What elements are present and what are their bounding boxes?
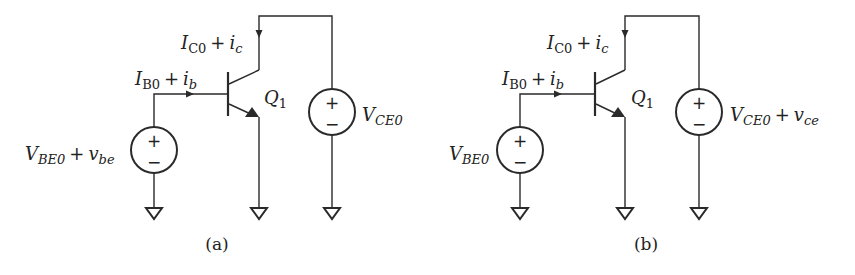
base-source-label: VBE0+vbe [25, 143, 115, 167]
collector-current-label: IC0+ic [180, 32, 243, 56]
ground-icon [251, 208, 267, 219]
base-wire [154, 94, 228, 127]
circuit-panel-b: + − + − IC0+ic IB0+ib Q1 VBE0 VCE0+vce (… [449, 16, 819, 254]
base-current-label: IB0+ib [501, 68, 564, 92]
ce-source-label: VCE0+vce [730, 104, 819, 128]
circuit-panel-a: + − + − IC0+ic IB0+ib Q1 VBE0+vbe VCE0 (… [25, 16, 403, 254]
ground-icon [512, 208, 528, 219]
ground-icon [691, 208, 707, 219]
panel-caption: (b) [634, 234, 658, 254]
transistor-label: Q1 [264, 87, 287, 111]
source-minus-sign: − [513, 152, 527, 172]
collector-supply-wire [259, 16, 332, 89]
transistor-label: Q1 [631, 87, 654, 111]
collector-lead [229, 70, 259, 84]
ground-icon [324, 208, 340, 219]
source-minus-sign: − [325, 114, 339, 134]
panel-caption: (a) [205, 234, 228, 254]
ground-icon [617, 208, 633, 219]
base-wire [520, 94, 595, 127]
source-plus-sign: + [325, 93, 339, 113]
ce-source-label: VCE0 [362, 104, 403, 128]
collector-supply-wire [625, 16, 699, 89]
source-plus-sign: + [692, 93, 706, 113]
ground-icon [146, 208, 162, 219]
collector-current-arrow-icon [622, 30, 629, 38]
source-minus-sign: − [692, 114, 706, 134]
base-source-label: VBE0 [449, 143, 489, 167]
base-current-label: IB0+ib [134, 68, 197, 92]
collector-current-arrow-icon [256, 30, 263, 38]
collector-lead [596, 70, 625, 84]
collector-current-label: IC0+ic [546, 32, 609, 56]
source-minus-sign: − [147, 152, 161, 172]
circuit-figure: + − + − IC0+ic IB0+ib Q1 VBE0+vbe VCE0 (… [0, 0, 855, 275]
source-plus-sign: + [147, 131, 161, 151]
source-plus-sign: + [513, 131, 527, 151]
